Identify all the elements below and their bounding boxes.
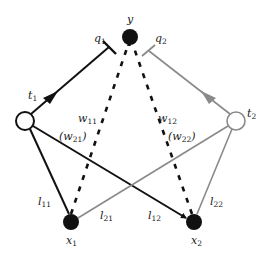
node-x2 (186, 214, 202, 230)
label-w12: w12 (158, 113, 177, 126)
label-x2: x2 (191, 235, 202, 248)
label-w22: (w22) (168, 131, 196, 144)
label-t1: t1 (28, 90, 37, 103)
node-t2 (227, 112, 245, 130)
label-w21: (w21) (59, 131, 87, 144)
edge-t2-x1 (78, 126, 228, 218)
label-l12: l12 (148, 210, 161, 223)
label-l21: l21 (100, 210, 113, 223)
label-x1: x1 (66, 235, 77, 248)
label-y: y (127, 14, 133, 25)
label-l11: l11 (38, 196, 51, 209)
node-x1 (63, 214, 79, 230)
label-l22: l22 (210, 196, 223, 209)
edge-t1-x2 (33, 126, 186, 218)
network-diagram: y q1 q2 t1 t2 w11 w12 (w21) (w22) l11 l2… (0, 0, 267, 257)
diagram-graphics (0, 0, 267, 257)
node-y (122, 29, 138, 45)
label-q2: q2 (155, 33, 167, 46)
node-t1 (16, 112, 34, 130)
label-t2: t2 (247, 108, 256, 121)
label-w11: w11 (78, 113, 97, 126)
edge-t2-y (149, 51, 230, 114)
edge-t1-y (31, 47, 109, 114)
label-q1: q1 (94, 33, 106, 46)
